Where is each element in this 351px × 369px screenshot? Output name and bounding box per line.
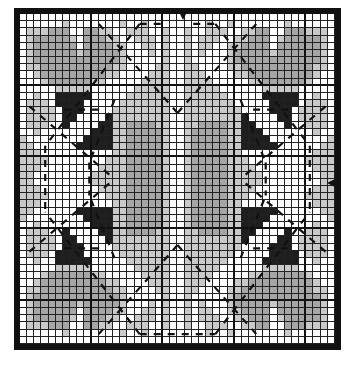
stitch-cell — [328, 315, 335, 322]
stitch-cell — [41, 100, 48, 107]
stitch-cell — [235, 279, 242, 286]
stitch-cell — [127, 186, 134, 193]
stitch-cell — [263, 330, 270, 337]
stitch-cell — [199, 50, 206, 57]
stitch-cell — [149, 337, 156, 344]
stitch-cell — [199, 236, 206, 243]
stitch-cell — [163, 107, 170, 114]
stitch-cell — [235, 294, 242, 301]
stitch-cell — [313, 222, 320, 229]
stitch-cell — [170, 179, 177, 186]
stitch-cell — [270, 294, 277, 301]
stitch-cell — [285, 330, 292, 337]
stitch-cell — [70, 28, 77, 35]
stitch-cell — [292, 200, 299, 207]
stitch-cell — [177, 129, 184, 136]
stitch-cell — [120, 157, 127, 164]
stitch-cell — [92, 157, 99, 164]
stitch-cell — [185, 129, 192, 136]
stitch-cell — [106, 279, 113, 286]
stitch-cell — [263, 208, 270, 215]
stitch-cell — [56, 43, 63, 50]
stitch-cell — [213, 208, 220, 215]
stitch-cell — [156, 251, 163, 258]
stitch-cell — [213, 236, 220, 243]
stitch-cell — [135, 222, 142, 229]
stitch-cell — [49, 64, 56, 71]
stitch-cell — [41, 272, 48, 279]
stitch-cell — [163, 308, 170, 315]
stitch-cell — [256, 79, 263, 86]
stitch-cell — [220, 200, 227, 207]
stitch-cell — [242, 308, 249, 315]
stitch-cell — [177, 236, 184, 243]
stitch-cell — [135, 172, 142, 179]
stitch-cell — [56, 222, 63, 229]
stitch-cell — [34, 107, 41, 114]
stitch-cell — [127, 172, 134, 179]
stitch-cell — [185, 294, 192, 301]
stitch-cell — [177, 100, 184, 107]
stitch-cell — [127, 114, 134, 121]
stitch-cell — [270, 114, 277, 121]
stitch-cell — [70, 64, 77, 71]
stitch-cell — [113, 222, 120, 229]
stitch-cell — [49, 229, 56, 236]
stitch-cell — [113, 315, 120, 322]
stitch-cell — [20, 186, 27, 193]
stitch-cell — [192, 165, 199, 172]
stitch-cell — [235, 122, 242, 129]
stitch-cell — [228, 265, 235, 272]
stitch-cell — [306, 258, 313, 265]
stitch-cell — [34, 114, 41, 121]
stitch-cell — [249, 64, 256, 71]
stitch-cell — [163, 186, 170, 193]
stitch-cell — [84, 122, 91, 129]
stitch-cell — [220, 193, 227, 200]
stitch-cell — [41, 150, 48, 157]
stitch-cell — [249, 258, 256, 265]
stitch-cell — [242, 301, 249, 308]
stitch-cell — [84, 43, 91, 50]
stitch-cell — [242, 229, 249, 236]
stitch-cell — [106, 222, 113, 229]
stitch-cell — [113, 193, 120, 200]
stitch-cell — [228, 229, 235, 236]
stitch-cell — [77, 36, 84, 43]
stitch-cell — [206, 244, 213, 251]
stitch-cell — [99, 294, 106, 301]
stitch-cell — [163, 64, 170, 71]
stitch-cell — [220, 100, 227, 107]
stitch-cell — [270, 172, 277, 179]
stitch-cell — [70, 301, 77, 308]
stitch-cell — [278, 301, 285, 308]
stitch-cell — [156, 315, 163, 322]
stitch-cell — [270, 100, 277, 107]
stitch-cell — [149, 294, 156, 301]
stitch-cell — [99, 93, 106, 100]
stitch-cell — [41, 107, 48, 114]
stitch-cell — [263, 322, 270, 329]
stitch-cell — [27, 272, 34, 279]
stitch-cell — [20, 229, 27, 236]
stitch-cell — [170, 322, 177, 329]
stitch-cell — [49, 258, 56, 265]
stitch-cell — [321, 50, 328, 57]
stitch-cell — [49, 79, 56, 86]
stitch-cell — [185, 100, 192, 107]
stitch-cell — [63, 236, 70, 243]
stitch-cell — [106, 200, 113, 207]
stitch-cell — [156, 100, 163, 107]
stitch-cell — [170, 71, 177, 78]
stitch-cell — [34, 294, 41, 301]
stitch-cell — [192, 287, 199, 294]
stitch-cell — [263, 287, 270, 294]
stitch-cell — [199, 251, 206, 258]
stitch-cell — [63, 14, 70, 21]
stitch-cell — [313, 36, 320, 43]
stitch-cell — [142, 229, 149, 236]
stitch-cell — [70, 236, 77, 243]
stitch-cell — [292, 222, 299, 229]
stitch-cell — [70, 337, 77, 344]
stitch-cell — [199, 193, 206, 200]
